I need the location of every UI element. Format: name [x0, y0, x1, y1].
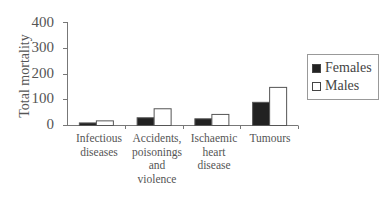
label-line: Infectious [69, 132, 129, 146]
legend: Females Males [307, 54, 379, 100]
y-tick-0: 0 [24, 117, 54, 132]
label-line: diseases [69, 146, 129, 160]
bar-females-3 [253, 102, 270, 125]
legend-label-males: Males [325, 78, 359, 94]
category-label-accidents: Accidents, poisonings and violence [127, 132, 187, 186]
label-line: disease [184, 159, 244, 173]
category-label-tumours: Tumours [240, 132, 300, 146]
category-label-ischaemic: Ischaemic heart disease [184, 132, 244, 173]
bar-females-1 [137, 118, 154, 126]
mortality-bar-chart: Total mortality 400 300 200 100 0 Infect… [0, 0, 389, 197]
bar-females-2 [195, 119, 212, 126]
label-line: Accidents, [127, 132, 187, 146]
legend-label-females: Females [325, 60, 372, 76]
bar-males-3 [270, 87, 287, 125]
females-swatch-icon [312, 64, 321, 73]
males-swatch-icon [312, 82, 321, 91]
label-line: poisonings [127, 146, 187, 160]
label-line: Ischaemic [184, 132, 244, 146]
y-tick-200: 200 [24, 66, 54, 81]
y-tick-300: 300 [24, 40, 54, 55]
bar-males-1 [154, 109, 171, 126]
legend-item-males: Males [312, 78, 359, 94]
category-label-infectious: Infectious diseases [69, 132, 129, 159]
bar-females-0 [79, 123, 96, 126]
label-line: and [127, 159, 187, 173]
label-line: Tumours [240, 132, 300, 146]
label-line: heart [184, 146, 244, 160]
y-tick-400: 400 [24, 15, 54, 30]
bar-males-0 [96, 121, 113, 126]
legend-item-females: Females [312, 60, 372, 76]
bar-males-2 [212, 114, 229, 125]
label-line: violence [127, 173, 187, 187]
y-tick-100: 100 [24, 91, 54, 106]
